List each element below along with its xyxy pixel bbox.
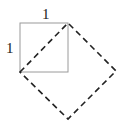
label-left-side: 1 [6, 40, 14, 56]
diagram-canvas: 1 1 [0, 0, 124, 126]
label-top-side: 1 [42, 6, 50, 22]
